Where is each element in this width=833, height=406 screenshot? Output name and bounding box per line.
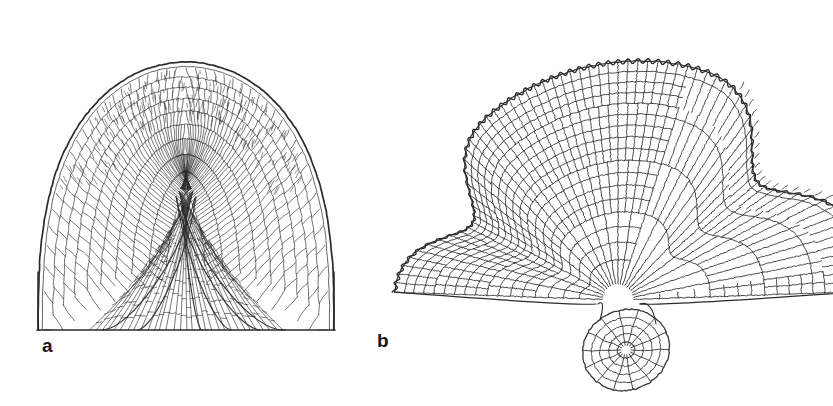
panel-b-drawing — [370, 0, 833, 406]
figure-root: a b — [0, 0, 833, 406]
panel-a-drawing — [0, 0, 416, 406]
panel-label-b: b — [377, 331, 389, 350]
panel-a-apex-section — [0, 0, 416, 406]
panel-b-thallus-fan — [370, 0, 833, 406]
panel-label-a: a — [42, 336, 53, 355]
